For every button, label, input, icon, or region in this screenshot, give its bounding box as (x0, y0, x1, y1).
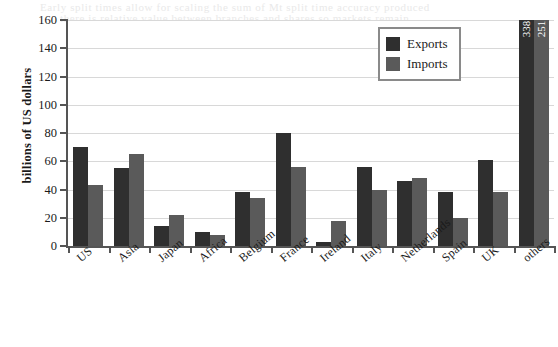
bar-chart: billions of US dollars 02040608010012014… (0, 0, 558, 347)
bar-group[interactable]: 338251 (514, 20, 555, 246)
bar-group[interactable] (190, 20, 231, 246)
bar-group[interactable] (473, 20, 514, 246)
bar-exports[interactable] (73, 147, 88, 246)
y-axis-tick-label: 20 (45, 210, 58, 225)
x-axis-tick (68, 246, 70, 253)
y-axis-tick-label: 160 (38, 13, 57, 28)
x-axis-tick (230, 246, 232, 253)
y-axis-tick-label: 100 (38, 97, 57, 112)
x-axis-tick (433, 246, 435, 253)
bar-group[interactable] (311, 20, 352, 246)
legend-swatch-imports (386, 57, 400, 71)
y-axis-title: billions of US dollars (20, 26, 35, 226)
x-axis-tick (352, 246, 354, 253)
y-axis-tick (60, 160, 68, 162)
bar-exports[interactable] (478, 160, 493, 246)
y-axis-tick (60, 19, 68, 21)
legend-swatch-exports (386, 37, 400, 51)
bar-imports[interactable] (493, 192, 508, 246)
y-axis-tick (60, 245, 68, 247)
x-axis-tick (149, 246, 151, 253)
y-axis-tick-label: 40 (45, 182, 58, 197)
bar-value-label: 338 (520, 21, 532, 38)
bar-imports[interactable] (88, 185, 103, 246)
bar-exports[interactable] (235, 192, 250, 246)
y-axis-tick-label: 140 (38, 41, 57, 56)
y-axis-tick-label: 120 (38, 69, 57, 84)
y-axis-tick (60, 104, 68, 106)
legend: ExportsImports (378, 27, 461, 81)
bar-group[interactable] (149, 20, 190, 246)
bar-group[interactable] (68, 20, 109, 246)
legend-label: Exports (407, 36, 447, 52)
x-axis-tick (514, 246, 516, 253)
y-axis-tick (60, 132, 68, 134)
bar-imports[interactable]: 251 (534, 20, 549, 246)
bar-exports[interactable] (114, 168, 129, 246)
bar-group[interactable] (109, 20, 150, 246)
x-axis-tick (271, 246, 273, 253)
x-axis-tick (190, 246, 192, 253)
y-axis-tick (60, 189, 68, 191)
legend-item-imports[interactable]: Imports (386, 54, 447, 74)
bar-group[interactable] (271, 20, 312, 246)
x-axis-tick (109, 246, 111, 253)
y-axis-tick (60, 217, 68, 219)
x-axis-tick (473, 246, 475, 253)
y-axis-tick-label: 60 (45, 154, 58, 169)
bar-exports[interactable] (397, 181, 412, 246)
x-axis-tick (392, 246, 394, 253)
legend-item-exports[interactable]: Exports (386, 34, 447, 54)
bar-exports[interactable] (276, 133, 291, 246)
y-axis-tick (60, 76, 68, 78)
bar-value-label: 251 (535, 21, 547, 38)
bar-imports[interactable] (372, 190, 387, 247)
bar-exports[interactable] (357, 167, 372, 246)
bar-group[interactable] (230, 20, 271, 246)
y-axis-tick-label: 0 (51, 239, 57, 254)
y-axis-tick (60, 47, 68, 49)
bar-exports[interactable]: 338 (519, 20, 534, 246)
bar-imports[interactable] (129, 154, 144, 246)
y-axis-tick-label: 80 (45, 126, 58, 141)
legend-label: Imports (407, 56, 447, 72)
x-axis-tick (311, 246, 313, 253)
x-axis-tick (554, 246, 556, 253)
plot-area: 020406080100120140160 338251 (66, 20, 554, 248)
